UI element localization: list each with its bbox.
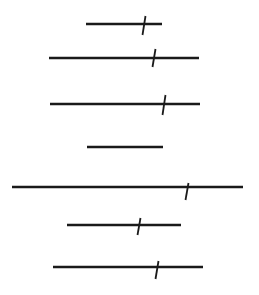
- bisection-line-7: [53, 261, 203, 279]
- bisection-tick-mark: [138, 218, 141, 235]
- bisection-line-2: [49, 49, 199, 67]
- line-bisection-diagram: [0, 0, 259, 295]
- bisection-line-6: [67, 218, 181, 235]
- bisection-line-1: [86, 16, 162, 35]
- bisection-line-5: [12, 183, 243, 200]
- bisection-tick-mark: [156, 261, 159, 279]
- bisection-tick-mark: [143, 16, 146, 35]
- bisection-line-3: [50, 95, 200, 115]
- bisection-tick-mark: [186, 183, 189, 200]
- segments-group: [12, 16, 243, 279]
